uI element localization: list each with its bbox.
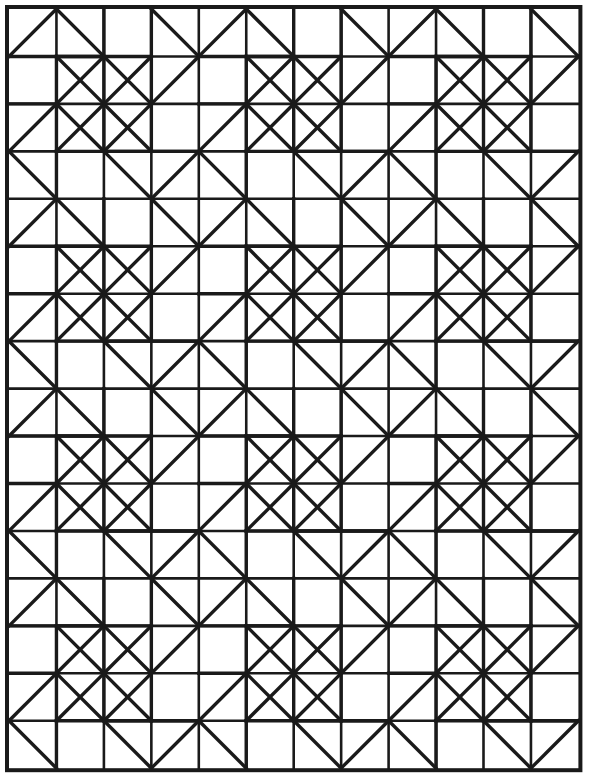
geometric-pattern-canvas — [0, 0, 595, 783]
pattern-page — [0, 0, 595, 783]
